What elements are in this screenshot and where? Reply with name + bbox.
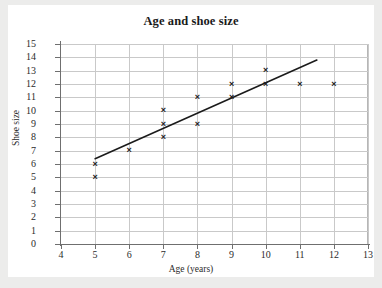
y-axis-tick <box>55 137 61 138</box>
y-axis-tick <box>55 151 61 152</box>
chart-page: Age and shoe size Age (years) Shoe size … <box>0 0 382 288</box>
y-axis-tick <box>55 177 61 178</box>
y-axis-tick-label: 1 <box>10 226 36 236</box>
x-axis-tick-label: 6 <box>117 250 141 260</box>
trendline <box>61 44 368 244</box>
y-axis-tick <box>55 217 61 218</box>
y-axis-tick-label: 2 <box>10 212 36 222</box>
y-axis-tick-label: 7 <box>10 146 36 156</box>
y-axis-tick-label: 0 <box>10 239 36 249</box>
x-axis-tick-label: 10 <box>254 250 278 260</box>
y-axis-tick <box>55 97 61 98</box>
x-axis-tick-label: 11 <box>288 250 312 260</box>
x-axis-title: Age (years) <box>8 264 374 274</box>
y-axis-tick-label: 15 <box>10 39 36 49</box>
plot-area: ×××××××××××××× <box>61 44 368 244</box>
x-axis-tick-label: 9 <box>220 250 244 260</box>
y-axis-tick-label: 8 <box>10 132 36 142</box>
x-axis-tick-label: 7 <box>151 250 175 260</box>
y-axis-tick <box>55 191 61 192</box>
y-axis-tick <box>55 231 61 232</box>
x-axis-line <box>58 244 370 245</box>
gridline-vertical <box>368 44 369 244</box>
y-axis-tick <box>55 44 61 45</box>
y-axis-tick <box>55 204 61 205</box>
chart-card: Age and shoe size Age (years) Shoe size … <box>8 5 374 277</box>
x-axis-tick-label: 13 <box>356 250 380 260</box>
y-axis-tick <box>55 57 61 58</box>
y-axis-tick-label: 3 <box>10 199 36 209</box>
x-axis-tick-label: 4 <box>49 250 73 260</box>
y-axis-tick <box>55 111 61 112</box>
y-axis-tick-label: 11 <box>10 92 36 102</box>
y-axis-tick-label: 6 <box>10 159 36 169</box>
x-axis-tick-label: 12 <box>322 250 346 260</box>
x-axis-tick-label: 5 <box>83 250 107 260</box>
y-axis-tick <box>55 124 61 125</box>
y-axis-tick <box>55 84 61 85</box>
y-axis-tick-label: 13 <box>10 66 36 76</box>
y-axis-tick-label: 4 <box>10 186 36 196</box>
chart-title: Age and shoe size <box>8 14 374 29</box>
x-axis-tick-label: 8 <box>185 250 209 260</box>
y-axis-tick-label: 5 <box>10 172 36 182</box>
y-axis-tick <box>55 164 61 165</box>
y-axis-tick-label: 14 <box>10 52 36 62</box>
y-axis-tick-label: 12 <box>10 79 36 89</box>
y-axis-tick-label: 10 <box>10 106 36 116</box>
y-axis-tick <box>55 71 61 72</box>
y-axis-tick-label: 9 <box>10 119 36 129</box>
